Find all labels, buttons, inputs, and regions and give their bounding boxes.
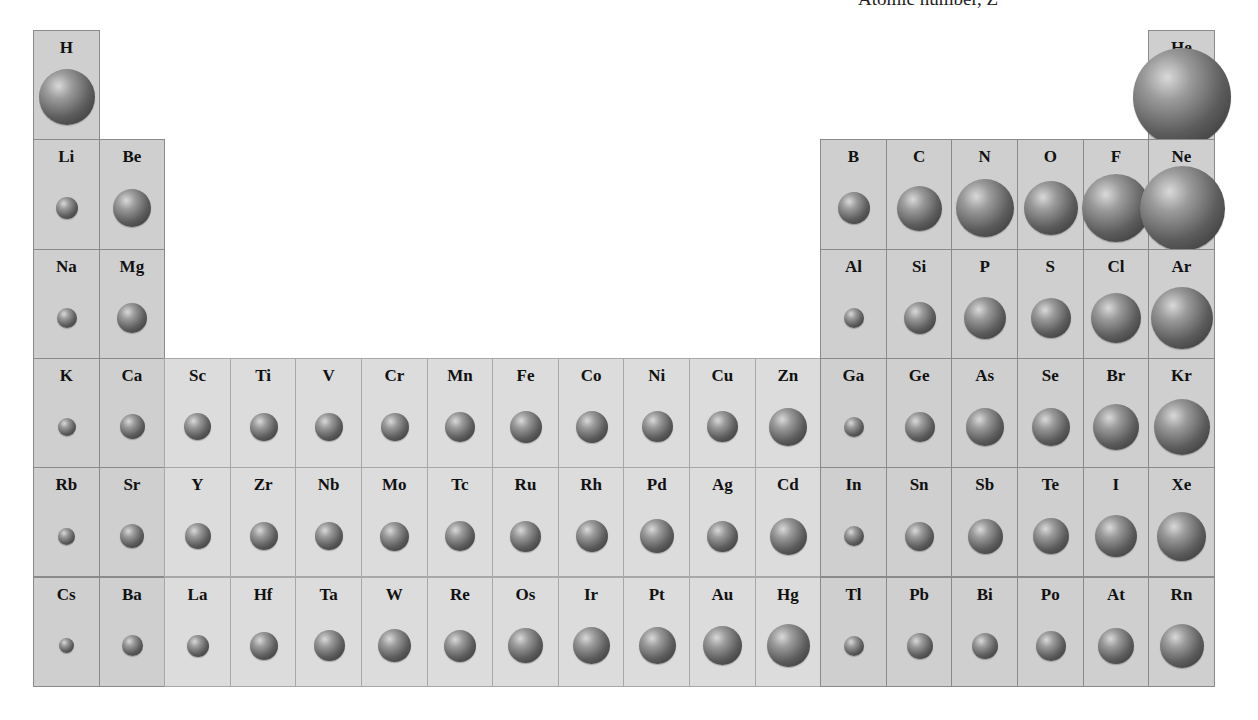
- element-symbol: Ge: [887, 366, 952, 386]
- atom-sphere-icon: [314, 630, 345, 661]
- element-symbol: Cd: [756, 475, 821, 495]
- element-cell-o: O: [1017, 139, 1084, 249]
- element-cell-ga: Ga: [820, 358, 887, 468]
- atom-sphere-icon: [58, 528, 75, 545]
- atom-sphere-icon: [576, 520, 608, 552]
- element-cell-nb: Nb: [295, 467, 362, 577]
- atom-sphere-icon: [39, 69, 95, 125]
- element-symbol: Zn: [756, 366, 821, 386]
- atom-sphere-icon: [381, 413, 409, 441]
- atom-sphere-icon: [1098, 628, 1134, 664]
- element-cell-hf: Hf: [230, 577, 297, 687]
- element-cell-hg: Hg: [755, 577, 822, 687]
- atom-sphere-icon: [968, 519, 1003, 554]
- element-symbol: Cu: [690, 366, 755, 386]
- atom-sphere-icon: [250, 522, 278, 550]
- element-symbol: La: [165, 585, 230, 605]
- element-symbol: Sr: [100, 475, 165, 495]
- atom-sphere-icon: [907, 633, 933, 659]
- atom-sphere-icon: [1032, 408, 1070, 446]
- atom-sphere-icon: [1133, 48, 1231, 146]
- element-cell-se: Se: [1017, 358, 1084, 468]
- atom-sphere-icon: [1157, 512, 1206, 561]
- element-cell-os: Os: [492, 577, 559, 687]
- atom-sphere-icon: [508, 628, 543, 663]
- element-symbol: Ti: [231, 366, 296, 386]
- element-cell-co: Co: [558, 358, 625, 468]
- atom-sphere-icon: [844, 417, 864, 437]
- element-symbol: Ni: [624, 366, 689, 386]
- atom-sphere-icon: [122, 635, 143, 656]
- element-cell-he: He: [1148, 30, 1215, 140]
- atom-sphere-icon: [113, 189, 151, 227]
- element-cell-sc: Sc: [164, 358, 231, 468]
- element-symbol: Xe: [1149, 475, 1214, 495]
- element-cell-xe: Xe: [1148, 467, 1215, 577]
- element-cell-cr: Cr: [361, 358, 428, 468]
- atom-sphere-icon: [58, 418, 76, 436]
- element-symbol: Y: [165, 475, 230, 495]
- element-cell-ca: Ca: [99, 358, 166, 468]
- atom-sphere-icon: [844, 636, 864, 656]
- element-symbol: Sb: [952, 475, 1017, 495]
- atom-sphere-icon: [1024, 181, 1078, 235]
- atom-sphere-icon: [445, 412, 475, 442]
- element-cell-br: Br: [1083, 358, 1150, 468]
- element-symbol: Os: [493, 585, 558, 605]
- atom-sphere-icon: [185, 523, 211, 549]
- element-symbol: O: [1018, 147, 1083, 167]
- atom-sphere-icon: [59, 638, 74, 653]
- atom-sphere-icon: [966, 408, 1004, 446]
- atom-sphere-icon: [250, 413, 278, 441]
- atom-sphere-icon: [510, 521, 541, 552]
- element-cell-as: As: [951, 358, 1018, 468]
- atom-sphere-icon: [57, 308, 77, 328]
- element-cell-ti: Ti: [230, 358, 297, 468]
- atom-sphere-icon: [767, 624, 810, 667]
- element-cell-k: K: [33, 358, 100, 468]
- element-symbol: Au: [690, 585, 755, 605]
- element-symbol: K: [34, 366, 99, 386]
- element-symbol: H: [34, 38, 99, 58]
- element-cell-h: H: [33, 30, 100, 140]
- element-cell-pd: Pd: [623, 467, 690, 577]
- element-cell-p: P: [951, 249, 1018, 359]
- element-cell-re: Re: [427, 577, 494, 687]
- element-symbol: Po: [1018, 585, 1083, 605]
- element-cell-al: Al: [820, 249, 887, 359]
- atom-sphere-icon: [1154, 399, 1210, 455]
- atom-sphere-icon: [510, 411, 542, 443]
- element-symbol: Na: [34, 257, 99, 277]
- atom-sphere-icon: [769, 408, 807, 446]
- element-symbol: At: [1084, 585, 1149, 605]
- element-cell-mo: Mo: [361, 467, 428, 577]
- element-cell-na: Na: [33, 249, 100, 359]
- element-cell-pt: Pt: [623, 577, 690, 687]
- element-symbol: Pt: [624, 585, 689, 605]
- atom-sphere-icon: [1140, 166, 1225, 251]
- element-symbol: Ca: [100, 366, 165, 386]
- element-symbol: Ar: [1149, 257, 1214, 277]
- element-cell-rh: Rh: [558, 467, 625, 577]
- element-symbol: W: [362, 585, 427, 605]
- element-cell-b: B: [820, 139, 887, 249]
- atom-sphere-icon: [904, 302, 936, 334]
- element-cell-v: V: [295, 358, 362, 468]
- element-symbol: Mn: [428, 366, 493, 386]
- element-symbol: Hg: [756, 585, 821, 605]
- element-cell-bi: Bi: [951, 577, 1018, 687]
- element-cell-ir: Ir: [558, 577, 625, 687]
- atom-sphere-icon: [120, 414, 145, 439]
- element-symbol: Nb: [296, 475, 361, 495]
- element-symbol: Ne: [1149, 147, 1214, 167]
- element-symbol: Re: [428, 585, 493, 605]
- atom-sphere-icon: [1160, 624, 1204, 668]
- element-symbol: Rb: [34, 475, 99, 495]
- element-symbol: Ir: [559, 585, 624, 605]
- atom-sphere-icon: [964, 297, 1006, 339]
- atom-sphere-icon: [576, 411, 608, 443]
- element-symbol: Pd: [624, 475, 689, 495]
- atom-sphere-icon: [972, 633, 998, 659]
- element-cell-at: At: [1083, 577, 1150, 687]
- element-cell-fe: Fe: [492, 358, 559, 468]
